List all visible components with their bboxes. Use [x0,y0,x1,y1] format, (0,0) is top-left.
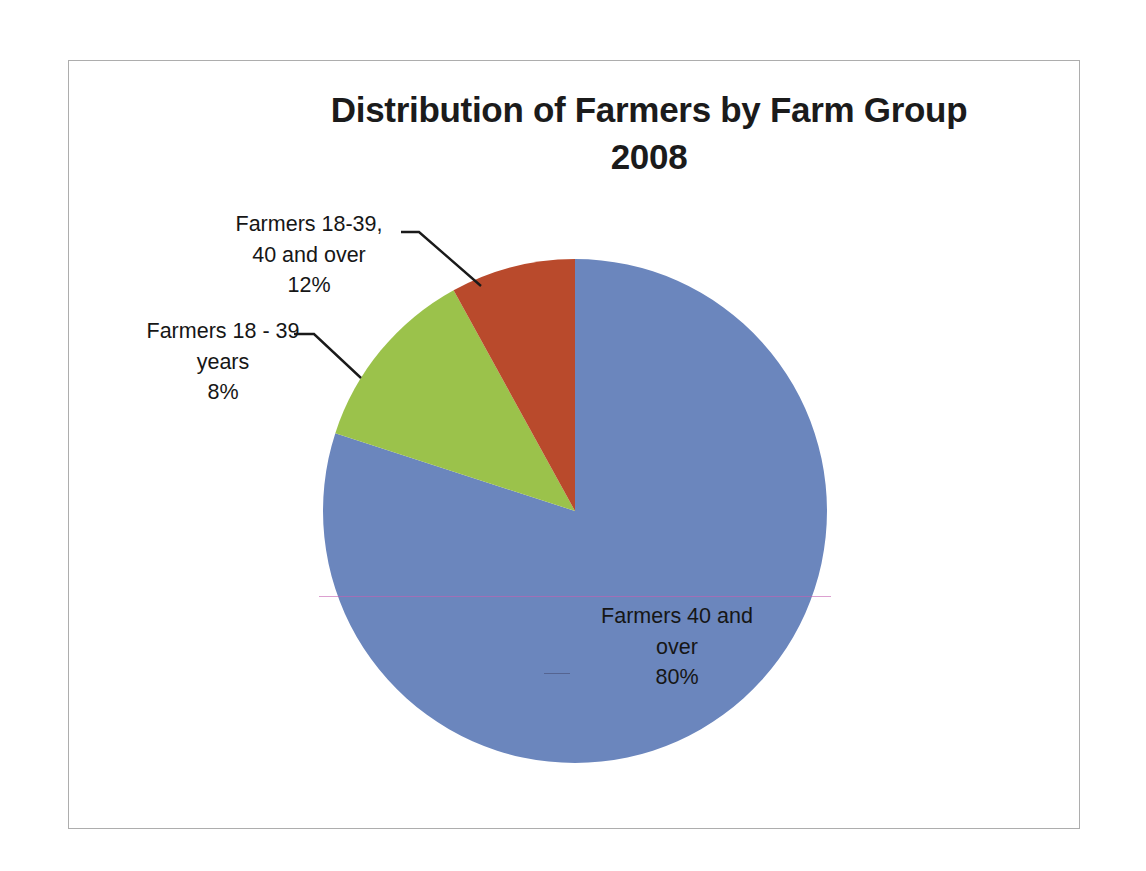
data-label-farmers-18-39-40-and-over: Farmers 18-39, 40 and over 12% [191,209,427,301]
data-label-red-line-2: years [109,347,337,378]
data-label-green-line-2: 40 and over [191,240,427,271]
data-label-farmers-18-39-years: Farmers 18 - 39 years 8% [109,316,337,408]
data-label-farmers-40-and-over: Farmers 40 and over 80% [569,601,785,693]
data-label-red-line-1: Farmers 18 - 39 [109,316,337,347]
pie-chart-svg [69,61,1081,830]
chart-frame: Distribution of Farmers by Farm Group 20… [68,60,1080,829]
data-label-blue-line-1: Farmers 40 and [569,601,785,632]
data-label-green-value: 12% [191,270,427,301]
scanned-page: Distribution of Farmers by Farm Group 20… [0,0,1146,871]
pie-plot-area [69,61,1081,830]
data-label-green-line-1: Farmers 18-39, [191,209,427,240]
data-label-red-value: 8% [109,377,337,408]
data-label-blue-value: 80% [569,662,785,693]
data-label-blue-line-2: over [569,632,785,663]
